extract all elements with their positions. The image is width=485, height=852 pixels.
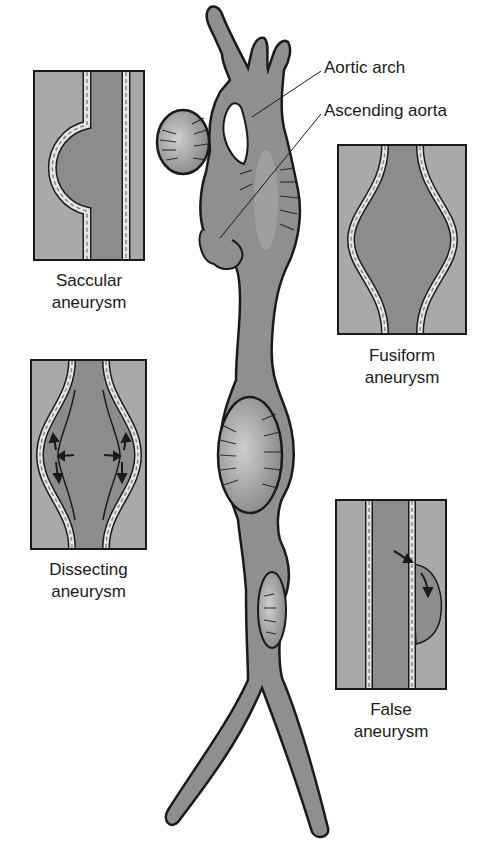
dissecting-caption-line2: aneurysm [31,581,146,603]
fusiform-caption: Fusiform aneurysm [338,345,466,389]
dissecting-caption: Dissecting aneurysm [31,559,146,603]
aneurysm-diagram: Aortic arch Ascending aorta Saccular ane… [0,0,485,852]
dissecting-panel [31,360,146,549]
saccular-panel [34,71,144,260]
saccular-caption: Saccular aneurysm [34,270,144,314]
aorta-illustration [157,7,328,837]
dissecting-caption-line1: Dissecting [31,559,146,581]
ascending-aorta-label: Ascending aorta [324,101,447,121]
saccular-caption-line1: Saccular [34,270,144,292]
false-caption-line1: False [336,699,446,721]
fusiform-caption-line2: aneurysm [338,367,466,389]
false-caption-line2: aneurysm [336,721,446,743]
false-caption: False aneurysm [336,699,446,743]
saccular-caption-line2: aneurysm [34,292,144,314]
fusiform-caption-line1: Fusiform [338,345,466,367]
aortic-arch-label: Aortic arch [324,58,405,78]
false-panel [336,500,446,689]
fusiform-panel [338,145,466,334]
